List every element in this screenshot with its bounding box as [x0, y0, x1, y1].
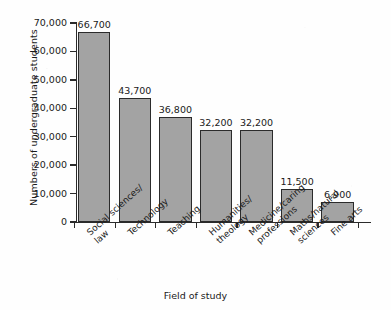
- x-axis-tick: [74, 222, 75, 228]
- y-axis-tick-label: 70,000: [7, 18, 67, 28]
- y-axis-tick-label: 0: [7, 217, 67, 227]
- y-axis-tick-label: 50,000: [7, 75, 67, 85]
- bar-value-label: 66,700: [69, 20, 119, 30]
- x-axis-tick: [358, 222, 359, 228]
- y-axis-tick: [70, 136, 77, 137]
- y-axis-tick-label: 60,000: [7, 46, 67, 56]
- y-axis-tick-label: 10,000: [7, 189, 67, 199]
- y-axis-tick-label: 20,000: [7, 160, 67, 170]
- bar-chart-figure: Numbers of undergraduate students 010,00…: [0, 0, 391, 310]
- y-axis-tick: [70, 164, 77, 165]
- y-axis-tick-label: 30,000: [7, 132, 67, 142]
- x-axis-tick: [196, 222, 197, 228]
- y-axis-tick: [70, 193, 77, 194]
- y-axis-tick-label: 40,000: [7, 103, 67, 113]
- x-axis-title: Field of study: [0, 290, 391, 301]
- y-axis-tick: [70, 51, 77, 52]
- x-axis-tick: [155, 222, 156, 228]
- bar-value-label: 32,200: [232, 118, 282, 128]
- y-axis-tick: [70, 79, 77, 80]
- bar-value-label: 43,700: [110, 86, 160, 96]
- y-axis-tick: [70, 108, 77, 109]
- bar: [78, 32, 110, 222]
- bar: [200, 130, 232, 222]
- bar-value-label: 36,800: [150, 105, 200, 115]
